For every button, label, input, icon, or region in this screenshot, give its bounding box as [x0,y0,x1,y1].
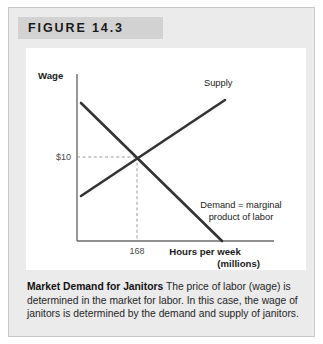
demand-curve [81,103,222,241]
supply-curve-label: Supply [204,78,233,88]
supply-curve [81,100,225,196]
y-tick-label-equilibrium-wage: $10 [56,152,71,162]
chart-card: Wage $10 168 Supply Demand = marginal pr… [26,48,306,270]
x-tick-label-equilibrium-hours: 168 [129,246,144,256]
x-axis-label: Hours per week [169,246,241,257]
figure-header-band: FIGURE 14.3 [18,17,163,39]
x-axis-units-label: (millions) [217,258,260,269]
y-axis-label: Wage [38,70,63,81]
figure-panel: FIGURE 14.3 Wage $10 168 Supply Demand [8,7,315,337]
caption-title: Market Demand for Janitors [27,281,163,292]
figure-caption: Market Demand for Janitors The price of … [27,280,301,321]
labor-market-supply-demand-chart: Wage $10 168 Supply Demand = marginal pr… [26,48,306,270]
demand-curve-label-line1: Demand = marginal [200,200,281,210]
figure-number-label: FIGURE 14.3 [18,21,124,35]
demand-curve-label-line2: product of labor [209,212,274,222]
